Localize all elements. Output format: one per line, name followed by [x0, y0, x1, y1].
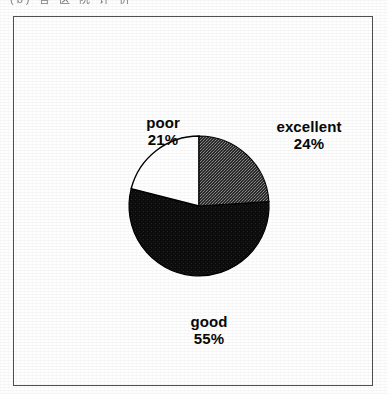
pie-label-excellent-value: 24% [262, 135, 356, 152]
scanned-page: (b) 各 医 院 评 价 [0, 0, 388, 394]
pie-slice-excellent [199, 136, 269, 206]
chart-frame-border: poor 21% excellent 24% good 55% [13, 16, 373, 386]
figure-caption-clipped: (b) 各 医 院 评 价 [10, 0, 133, 5]
pie-chart: poor 21% excellent 24% good 55% [14, 17, 372, 385]
pie-label-good: good 55% [169, 313, 249, 347]
pie-label-poor: poor 21% [126, 114, 200, 148]
pie-label-good-name: good [190, 313, 227, 330]
pie-label-poor-value: 21% [126, 131, 200, 148]
pie-label-poor-name: poor [146, 114, 180, 131]
pie-label-excellent-name: excellent [276, 118, 341, 135]
pie-label-good-value: 55% [169, 330, 249, 347]
pie-label-excellent: excellent 24% [262, 118, 356, 152]
